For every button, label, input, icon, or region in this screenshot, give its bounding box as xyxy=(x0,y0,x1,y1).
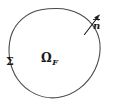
domain-label-omega-f: ΩF xyxy=(41,52,58,66)
domain-label-omega-symbol: Ω xyxy=(41,51,52,65)
boundary-label-sigma: Σ xyxy=(6,56,14,67)
normal-vector-label-n: n xyxy=(93,21,100,31)
domain-label-subscript: F xyxy=(52,57,58,67)
figure-container: Σ ΩF n xyxy=(0,0,113,108)
